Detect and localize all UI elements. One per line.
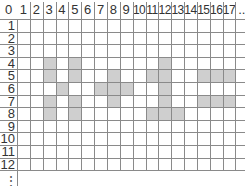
column-label: 10 <box>133 1 146 19</box>
shaded-cell <box>171 107 184 120</box>
shaded-cell <box>158 57 171 70</box>
column-label: 2 <box>30 1 43 19</box>
shaded-cell <box>107 69 120 82</box>
column-label: 9 <box>120 1 133 19</box>
shaded-cell <box>146 107 159 120</box>
shaded-cell <box>43 57 56 70</box>
column-label: 3 <box>43 1 56 19</box>
column-label: 1 <box>17 1 30 19</box>
grid-line-horizontal <box>0 145 245 146</box>
shaded-cell <box>107 95 120 108</box>
grid-line-horizontal <box>0 132 245 133</box>
shaded-cell <box>107 82 120 95</box>
column-label: 11 <box>146 1 159 19</box>
shaded-cell <box>68 107 81 120</box>
shaded-cell <box>68 95 81 108</box>
grid-line-horizontal <box>0 95 245 96</box>
shaded-cell <box>68 57 81 70</box>
column-label: .. <box>235 1 245 19</box>
grid-line-horizontal <box>0 107 245 108</box>
column-label: 0 <box>0 1 17 19</box>
shaded-cell <box>210 95 223 108</box>
column-label: 6 <box>81 1 94 19</box>
shaded-cell <box>94 82 107 95</box>
column-label: 15 <box>197 1 210 19</box>
shaded-cell <box>68 69 81 82</box>
shaded-cell <box>158 95 171 108</box>
shaded-cell <box>223 95 236 108</box>
grid-line-horizontal <box>0 69 245 70</box>
column-label: 7 <box>94 1 107 19</box>
grid-line-horizontal <box>0 158 245 159</box>
shaded-cell <box>43 95 56 108</box>
shaded-cell <box>120 82 133 95</box>
row-label: 12 <box>0 159 15 171</box>
shaded-cell <box>197 69 210 82</box>
shaded-cell <box>197 95 210 108</box>
shaded-cell <box>158 69 171 82</box>
column-label: 5 <box>68 1 81 19</box>
shaded-cell <box>158 82 171 95</box>
grid-line-horizontal <box>0 120 245 121</box>
column-label: 14 <box>184 1 197 19</box>
grid-line-horizontal <box>0 170 245 171</box>
grid-line-horizontal <box>0 44 245 45</box>
column-label: 17 <box>223 1 236 19</box>
shaded-cell <box>158 107 171 120</box>
shaded-cell <box>146 69 159 82</box>
shaded-cell <box>43 69 56 82</box>
shaded-cell <box>56 82 69 95</box>
column-label: 4 <box>56 1 69 19</box>
column-label: 13 <box>171 1 184 19</box>
column-label: 8 <box>107 1 120 19</box>
shaded-cell <box>210 69 223 82</box>
shaded-cell <box>43 107 56 120</box>
grid-line-horizontal <box>0 32 245 33</box>
grid-line-horizontal <box>0 19 245 20</box>
grid-line-horizontal <box>0 57 245 58</box>
column-label: 12 <box>158 1 171 19</box>
continuation-marker: ⋮ <box>4 174 18 186</box>
shaded-cell <box>223 69 236 82</box>
grid-line-horizontal <box>0 82 245 83</box>
column-label: 16 <box>210 1 223 19</box>
